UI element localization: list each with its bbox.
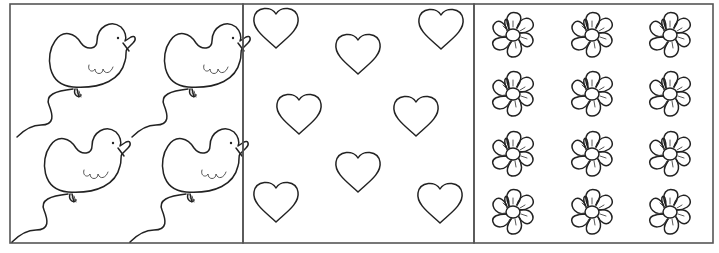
heart-icon xyxy=(254,8,298,48)
flower-icon xyxy=(572,13,613,57)
flower-icon xyxy=(493,190,534,234)
flower-icon xyxy=(572,132,613,176)
heart-icon xyxy=(419,9,463,49)
counting-worksheet xyxy=(0,0,719,253)
heart-icon xyxy=(336,34,380,74)
duck-balloon-icon xyxy=(17,24,135,137)
flower-icon xyxy=(493,72,534,116)
heart-icon xyxy=(418,183,462,223)
panel-ducks xyxy=(10,4,250,243)
flower-icon xyxy=(650,72,691,116)
flower-icon xyxy=(493,132,534,176)
panel-flowers xyxy=(474,4,713,243)
flower-icon xyxy=(572,72,613,116)
duck-balloon-icon xyxy=(12,129,130,242)
heart-icon xyxy=(394,96,438,136)
heart-icon xyxy=(277,94,321,134)
duck-balloon-icon xyxy=(132,24,250,137)
flower-icon xyxy=(650,190,691,234)
flower-icon xyxy=(493,13,534,57)
flower-icon xyxy=(572,190,613,234)
heart-icon xyxy=(254,182,298,222)
flower-icon xyxy=(650,132,691,176)
heart-icon xyxy=(336,152,380,192)
panel-hearts xyxy=(243,4,474,243)
duck-balloon-icon xyxy=(130,129,248,242)
flower-icon xyxy=(650,13,691,57)
